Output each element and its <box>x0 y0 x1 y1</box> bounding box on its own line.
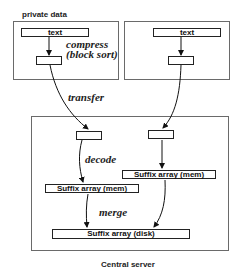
flow-arrows <box>0 0 243 278</box>
arrow-transfer-left <box>50 65 88 129</box>
arrow-decode-left <box>79 140 83 182</box>
arrow-transfer-right <box>163 65 181 128</box>
arrow-merge-left <box>86 194 88 227</box>
arrow-merge-right <box>154 180 165 227</box>
